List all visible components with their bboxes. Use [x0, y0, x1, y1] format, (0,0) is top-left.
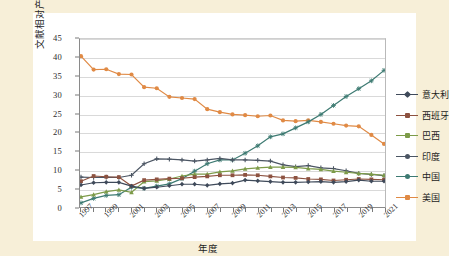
- y-axis-tick-mark: [75, 38, 79, 39]
- data-point-marker: [230, 112, 234, 116]
- data-point-marker: [104, 180, 108, 185]
- y-axis-tick-label: 35: [40, 71, 62, 81]
- series-西班牙: [80, 173, 385, 188]
- y-axis-tick-mark: [75, 132, 79, 133]
- legend-item-巴西[interactable]: 巴西: [396, 129, 449, 142]
- plot-area: [79, 38, 386, 208]
- data-point-marker: [192, 159, 197, 164]
- data-point-marker: [193, 97, 197, 101]
- data-point-marker: [331, 122, 335, 126]
- data-point-marker: [117, 175, 121, 179]
- data-point-marker: [306, 120, 311, 125]
- legend-label: 印度: [422, 150, 440, 163]
- legend-item-印度[interactable]: 印度: [396, 150, 449, 163]
- data-point-marker: [243, 178, 247, 183]
- y-axis-label: 文献相对产出率（%）: [32, 0, 46, 65]
- data-point-marker: [231, 173, 235, 177]
- data-point-marker: [344, 94, 349, 99]
- data-point-marker: [230, 181, 234, 186]
- data-point-marker: [205, 175, 209, 179]
- data-point-marker: [205, 158, 210, 163]
- y-axis-tick-mark: [75, 94, 79, 95]
- data-point-marker: [268, 179, 272, 184]
- data-point-marker: [243, 151, 248, 156]
- data-point-marker: [104, 193, 109, 198]
- data-point-marker: [155, 86, 159, 90]
- y-axis-tick-label: 0: [40, 203, 62, 213]
- data-point-marker: [116, 192, 121, 197]
- y-axis-tick-label: 30: [40, 90, 62, 100]
- data-point-marker: [319, 120, 323, 124]
- legend-item-中国[interactable]: 中国: [396, 170, 449, 183]
- x-axis-label: 年度: [198, 241, 218, 255]
- data-point-marker: [117, 180, 121, 185]
- legend-item-意大利[interactable]: 意大利: [396, 88, 449, 101]
- data-point-marker: [218, 181, 222, 186]
- data-point-marker: [155, 177, 159, 181]
- data-point-marker: [92, 174, 96, 178]
- data-point-marker: [167, 157, 172, 162]
- data-point-marker: [91, 196, 96, 201]
- data-point-marker: [205, 107, 209, 111]
- data-point-marker: [142, 178, 146, 182]
- data-point-marker: [255, 158, 260, 163]
- data-point-marker: [268, 159, 273, 164]
- y-axis-tick-mark: [75, 151, 79, 152]
- legend-label: 西班牙: [422, 109, 449, 122]
- data-point-marker: [281, 131, 286, 136]
- data-point-marker: [243, 158, 248, 163]
- chart-card: 051015202530354045 199719992001200320052…: [33, 13, 416, 241]
- data-point-marker: [268, 113, 272, 117]
- data-point-marker: [344, 124, 348, 128]
- legend-label: 美国: [422, 191, 440, 204]
- data-point-marker: [268, 175, 272, 179]
- data-point-marker: [294, 119, 298, 123]
- data-point-marker: [180, 158, 185, 163]
- data-point-marker: [205, 183, 209, 188]
- legend-item-西班牙[interactable]: 西班牙: [396, 109, 449, 122]
- data-point-marker: [243, 173, 247, 177]
- data-point-marker: [382, 68, 385, 73]
- data-point-marker: [167, 95, 171, 99]
- data-point-marker: [256, 114, 260, 118]
- series-美国: [80, 54, 385, 146]
- y-axis-tick-mark: [75, 113, 79, 114]
- y-axis-tick-mark: [75, 189, 79, 190]
- data-point-marker: [193, 175, 197, 179]
- data-point-marker: [180, 182, 184, 187]
- data-point-marker: [331, 103, 336, 108]
- data-point-marker: [256, 178, 260, 183]
- data-point-marker: [294, 176, 298, 180]
- data-point-marker: [293, 125, 298, 130]
- data-point-marker: [129, 72, 133, 76]
- data-point-marker: [268, 134, 273, 139]
- data-point-marker: [218, 110, 222, 114]
- data-point-marker: [256, 173, 260, 177]
- data-point-marker: [80, 183, 83, 188]
- data-point-marker: [293, 180, 297, 185]
- data-point-marker: [180, 96, 184, 100]
- data-point-marker: [369, 78, 374, 83]
- data-point-marker: [218, 173, 222, 177]
- data-point-marker: [356, 86, 361, 91]
- legend-label: 中国: [422, 170, 440, 183]
- data-point-marker: [167, 177, 171, 181]
- legend-label: 巴西: [422, 129, 440, 142]
- data-point-marker: [117, 72, 121, 76]
- y-axis-tick-mark: [75, 56, 79, 57]
- data-point-marker: [104, 67, 108, 71]
- y-axis-tick-label: 20: [40, 127, 62, 137]
- data-point-marker: [142, 85, 146, 89]
- legend-item-美国[interactable]: 美国: [396, 191, 449, 204]
- data-point-marker: [369, 133, 373, 137]
- data-point-marker: [243, 113, 247, 117]
- series-layer: [80, 39, 385, 207]
- data-point-marker: [318, 112, 323, 117]
- data-point-marker: [80, 179, 83, 183]
- data-point-marker: [92, 68, 96, 72]
- y-axis-tick-label: 10: [40, 165, 62, 175]
- y-axis-tick-mark: [75, 208, 79, 209]
- y-axis-tick-mark: [75, 75, 79, 76]
- chart-legend: 意大利西班牙巴西印度中国美国: [396, 88, 449, 204]
